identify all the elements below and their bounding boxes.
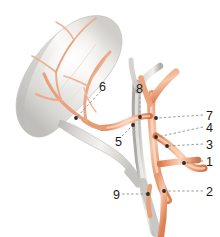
supraduodenal-artery xyxy=(149,186,151,216)
label-9: 9 xyxy=(113,189,120,202)
leader-dot-9 xyxy=(146,192,150,196)
label-3: 3 xyxy=(206,139,213,152)
leader-line-4 xyxy=(157,127,203,137)
gallbladder-body xyxy=(7,3,138,137)
leader-dot-7 xyxy=(154,116,158,120)
label-1: 1 xyxy=(206,156,213,169)
leader-dot-1 xyxy=(182,161,186,165)
leader-dot-8 xyxy=(138,115,142,119)
label-8: 8 xyxy=(136,83,143,96)
leader-dot-2 xyxy=(162,189,166,193)
leader-dot-3 xyxy=(165,144,169,148)
label-7: 7 xyxy=(206,110,213,123)
label-5: 5 xyxy=(115,136,122,149)
label-2: 2 xyxy=(206,186,213,199)
anatomy-figure: 123456789 xyxy=(0,0,220,237)
leader-line-5 xyxy=(122,126,132,136)
leader-dot-4 xyxy=(154,135,158,139)
label-4: 4 xyxy=(206,122,213,135)
anatomy-illustration xyxy=(0,0,220,237)
label-6: 6 xyxy=(99,81,106,94)
leader-dot-6 xyxy=(74,116,78,120)
leader-dot-5 xyxy=(131,123,135,127)
leader-line-7 xyxy=(157,115,203,118)
right-hepatic-artery xyxy=(152,72,176,100)
